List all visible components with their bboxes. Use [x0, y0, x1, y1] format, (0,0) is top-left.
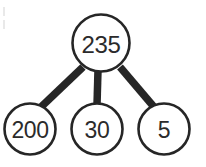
child-tens-label: 30 — [85, 117, 110, 143]
child-ones-label: 5 — [158, 117, 170, 143]
edge-group — [41, 67, 154, 107]
parent-node[interactable]: 235 — [73, 15, 130, 72]
edge-parent-to-5 — [120, 67, 154, 107]
number-bond-diagram: 235 200 30 5 — [0, 0, 206, 167]
child-hundreds-label: 200 — [11, 117, 48, 143]
bond-svg-canvas: 235 200 30 5 — [0, 0, 206, 167]
child-node-hundreds[interactable]: 200 — [5, 104, 56, 155]
edge-parent-to-30 — [97, 70, 98, 105]
parent-node-label: 235 — [82, 31, 121, 58]
child-node-ones[interactable]: 5 — [139, 104, 190, 155]
edge-parent-to-200 — [41, 67, 83, 107]
child-node-tens[interactable]: 30 — [72, 104, 123, 155]
